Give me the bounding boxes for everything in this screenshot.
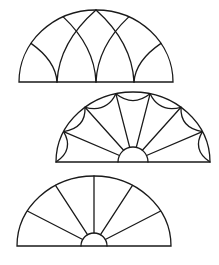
plain-sunburst-fanlight (17, 176, 171, 246)
scallop-arc (85, 94, 116, 109)
gothic-arch-rib (31, 43, 57, 82)
gothic-arch-rib (134, 43, 161, 82)
fanlight-designs-figure (0, 0, 219, 265)
scalloped-sunburst-fanlight (56, 92, 210, 162)
radial-spoke (147, 132, 203, 156)
gothic-arch-rib (96, 10, 134, 82)
scallop-arc (64, 107, 85, 131)
scallop-arc (150, 94, 181, 109)
scallop-arc (116, 94, 150, 101)
radial-spoke (64, 132, 120, 156)
gothic-arch-fanlight (19, 10, 173, 82)
scallop-arc (181, 107, 202, 131)
radial-spoke (136, 94, 150, 148)
outer-arch-frame (56, 92, 210, 162)
gothic-arch-rib (57, 10, 96, 82)
radial-spoke (116, 94, 130, 148)
outer-arch-frame (19, 10, 173, 82)
center-hub (81, 233, 107, 246)
